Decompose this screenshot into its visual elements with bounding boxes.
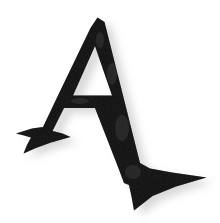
letter-a-graphic: Large black serif capital letter A on a …	[0, 0, 220, 223]
glyph-stage: Large black serif capital letter A on a …	[0, 0, 220, 223]
image-canvas: Large black serif capital letter A on a …	[0, 0, 220, 223]
